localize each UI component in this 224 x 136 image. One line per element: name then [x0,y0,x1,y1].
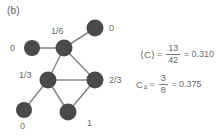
global-denominator: 8 [159,84,168,95]
graph-node [87,20,104,37]
node-clustering-label: 1 [87,119,92,128]
graph-node [87,72,104,89]
global-result-value: 0.375 [179,80,202,89]
global-equals-sign-2: = [172,80,177,89]
global-numerator: 3 [159,74,168,84]
graph-node [56,40,73,57]
node-clustering-label: 0 [109,24,114,33]
mean-fraction: 13 42 [166,44,180,65]
network-graph [0,0,136,136]
mean-denominator: 42 [166,54,180,65]
global-equals-sign: = [149,80,154,89]
figure-panel-b: (b) 01/601/32/301 ⟨C⟩ = 13 42 = 0.310 C … [0,0,224,136]
node-clustering-label: 2/3 [109,76,122,85]
equation-mean-clustering: ⟨C⟩ = 13 42 = 0.310 [140,44,224,65]
mean-result-value: 0.310 [191,50,214,59]
node-clustering-label: 1/6 [51,27,64,36]
mean-numerator: 13 [166,44,180,54]
equation-global-clustering: C Δ = 3 8 = 0.375 [136,74,224,95]
node-clustering-label: 0 [10,44,15,53]
graph-node [24,40,40,56]
global-clustering-subscript: Δ [143,84,147,90]
global-fraction: 3 8 [159,74,168,95]
global-clustering-symbol: C [136,80,143,90]
equations-block: ⟨C⟩ = 13 42 = 0.310 C Δ = 3 8 = 0.375 [134,44,224,95]
graph-node [60,104,77,121]
graph-node [40,72,57,89]
mean-equals-sign-2: = [184,50,189,59]
graph-node [16,102,32,118]
node-clustering-label: 1/3 [19,71,32,80]
mean-equals-sign: = [157,50,162,59]
node-clustering-label: 0 [20,122,25,131]
mean-clustering-symbol: ⟨C⟩ [140,50,155,60]
